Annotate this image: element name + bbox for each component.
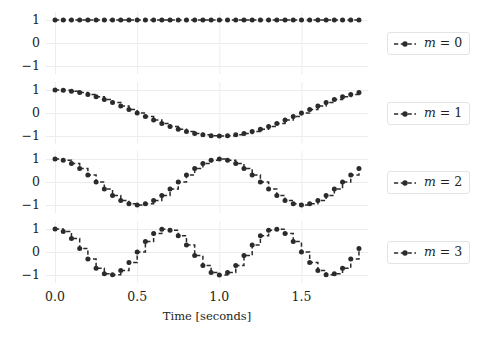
data-point xyxy=(126,107,131,112)
data-point xyxy=(53,18,58,23)
data-point xyxy=(94,266,99,271)
data-point xyxy=(94,180,99,185)
figure-root: 10−110−110−110−1 m = 0m = 1m = 2m = 3 0.… xyxy=(0,0,481,338)
data-point xyxy=(356,18,361,23)
data-point xyxy=(250,242,255,247)
y-tick-label: 0 xyxy=(0,176,40,189)
data-point xyxy=(315,268,320,273)
data-point xyxy=(348,172,353,177)
data-point xyxy=(61,158,66,163)
x-tick-label: 0.5 xyxy=(127,291,147,304)
data-point xyxy=(217,272,222,277)
data-point xyxy=(151,231,156,236)
data-point xyxy=(266,124,271,129)
data-point xyxy=(283,18,288,23)
data-point xyxy=(151,118,156,123)
subplot-0 xyxy=(46,12,368,74)
y-tick-label: −1 xyxy=(0,60,40,73)
data-point xyxy=(225,133,230,138)
data-point xyxy=(77,90,82,95)
x-tick-label: 0.0 xyxy=(45,291,65,304)
data-point xyxy=(258,180,263,185)
y-tick-label: 1 xyxy=(0,223,40,236)
data-point xyxy=(274,18,279,23)
data-point xyxy=(307,107,312,112)
data-point xyxy=(192,166,197,171)
legend-marker-icon xyxy=(393,248,417,258)
data-point xyxy=(118,198,123,203)
data-point xyxy=(356,90,361,95)
data-point xyxy=(151,198,156,203)
data-point xyxy=(332,187,337,192)
data-point xyxy=(143,114,148,119)
data-point xyxy=(85,92,90,97)
y-tick-label: −1 xyxy=(0,199,40,212)
data-point xyxy=(159,121,164,126)
data-point xyxy=(200,263,205,268)
data-point xyxy=(94,94,99,99)
data-point xyxy=(250,172,255,177)
data-point xyxy=(135,111,140,116)
data-point xyxy=(176,180,181,185)
data-point xyxy=(315,198,320,203)
data-point xyxy=(184,18,189,23)
data-point xyxy=(266,228,271,233)
data-point xyxy=(110,272,115,277)
subplot-canvas-2 xyxy=(46,151,368,213)
data-point xyxy=(53,88,58,93)
data-point xyxy=(348,257,353,262)
data-point xyxy=(151,18,156,23)
subplot-canvas-1 xyxy=(46,82,368,144)
legend-label: m = 2 xyxy=(424,176,462,189)
data-point xyxy=(168,124,173,129)
data-point xyxy=(283,118,288,123)
data-point xyxy=(159,227,164,232)
data-point xyxy=(118,268,123,273)
data-point xyxy=(340,180,345,185)
data-point xyxy=(291,239,296,244)
data-point xyxy=(77,166,82,171)
data-point xyxy=(233,263,238,268)
data-point xyxy=(250,129,255,134)
data-point xyxy=(77,246,82,251)
data-point xyxy=(85,18,90,23)
legend-1[interactable]: m = 1 xyxy=(387,102,470,125)
data-point xyxy=(69,89,74,94)
data-point xyxy=(283,198,288,203)
data-point xyxy=(356,246,361,251)
legend-3[interactable]: m = 3 xyxy=(387,241,470,264)
data-point xyxy=(299,18,304,23)
data-point xyxy=(241,166,246,171)
data-point xyxy=(159,193,164,198)
data-point xyxy=(135,202,140,207)
data-point xyxy=(53,227,58,232)
data-point xyxy=(143,201,148,206)
data-point xyxy=(266,18,271,23)
y-tick-label: 0 xyxy=(0,107,40,120)
x-tick-label: 1.0 xyxy=(209,291,229,304)
legend-label: m = 1 xyxy=(424,107,462,120)
data-point xyxy=(332,18,337,23)
data-point xyxy=(69,236,74,241)
data-point xyxy=(291,201,296,206)
legend-marker-icon xyxy=(393,39,417,49)
data-point xyxy=(168,228,173,233)
legend-label: m = 0 xyxy=(424,37,462,50)
data-point xyxy=(209,133,214,138)
data-point xyxy=(217,157,222,162)
data-point xyxy=(102,271,107,276)
data-point xyxy=(143,18,148,23)
legend-0[interactable]: m = 0 xyxy=(387,32,470,55)
data-point xyxy=(94,18,99,23)
data-point xyxy=(176,233,181,238)
legend-2[interactable]: m = 2 xyxy=(387,171,470,194)
data-point xyxy=(315,18,320,23)
data-point xyxy=(176,127,181,132)
data-point xyxy=(348,92,353,97)
figure-caption xyxy=(0,330,481,338)
data-point xyxy=(192,18,197,23)
data-point xyxy=(324,100,329,105)
data-point xyxy=(274,121,279,126)
y-tick-label: 0 xyxy=(0,37,40,50)
data-point xyxy=(192,131,197,136)
